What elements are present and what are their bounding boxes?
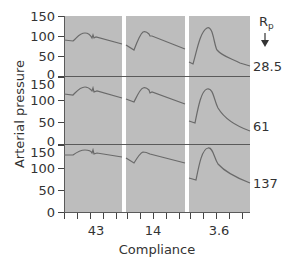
down-arrow-icon	[261, 33, 269, 47]
row-label-61: 61	[253, 119, 270, 134]
y-axis-title: Arterial pressure	[12, 60, 27, 168]
ytick-r3-150: 150	[30, 145, 55, 160]
y-axis-labels: 150 100 50 0 150 100 50 0 150 100 50 0	[30, 9, 55, 220]
ytick-r3-100: 100	[30, 161, 55, 176]
row-header: Rp	[259, 14, 274, 47]
ytick-r3-50: 50	[38, 183, 55, 198]
pressure-compliance-chart: 150 100 50 0 150 100 50 0 150 100 50 0 A…	[0, 0, 287, 266]
column-labels: 43 14 3.6	[88, 223, 230, 238]
ytick-r1-150: 150	[30, 9, 55, 24]
y-axis-ticks	[58, 17, 64, 213]
row-header-R: Rp	[259, 14, 274, 31]
ytick-r2-50: 50	[38, 115, 55, 130]
col-label-14: 14	[145, 223, 162, 238]
ytick-r1-100: 100	[30, 29, 55, 44]
ytick-r1-50: 50	[38, 49, 55, 64]
ytick-r2-150: 150	[30, 77, 55, 92]
col-label-3-6: 3.6	[209, 223, 230, 238]
ytick-r3-0: 0	[47, 205, 55, 220]
row-label-28-5: 28.5	[253, 59, 282, 74]
row-label-137: 137	[253, 176, 278, 191]
x-axis-ticks	[65, 213, 243, 219]
x-axis-title: Compliance	[119, 242, 196, 257]
row-labels: 28.5 61 137	[253, 59, 282, 191]
col-label-43: 43	[88, 223, 105, 238]
ytick-r2-100: 100	[30, 93, 55, 108]
